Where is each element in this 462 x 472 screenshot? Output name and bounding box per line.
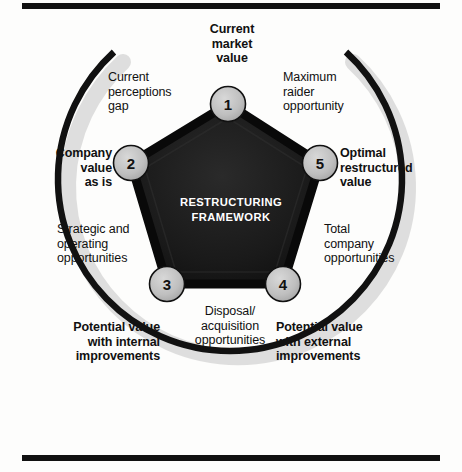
node-5[interactable]: 5 <box>303 146 338 181</box>
node-1[interactable]: 1 <box>211 87 246 122</box>
label-potential-value-with-external-improvements: Potential valuewith externalimprovements <box>276 320 390 364</box>
label-strategic-and-operating-opportunities: Strategic andoperatingopportunities <box>57 222 159 266</box>
node-2-number: 2 <box>127 155 135 172</box>
node-5-number: 5 <box>316 155 324 172</box>
pentagon-shape <box>131 104 320 284</box>
restructuring-framework-figure: RESTRUCTURING FRAMEWORK 1 2 3 4 5 Curren… <box>0 0 462 472</box>
label-total-company-opportunities: Totalcompanyopportunities <box>324 222 428 266</box>
node-1-number: 1 <box>224 96 232 113</box>
node-3-number: 3 <box>163 276 171 293</box>
center-title-line-2: FRAMEWORK <box>192 211 271 223</box>
node-4-number: 4 <box>279 276 288 293</box>
horizontal-rule-bottom <box>22 455 440 461</box>
label-disposal-acquisition-opportunities: Disposal/acquisitionopportunities <box>178 304 282 348</box>
label-current-market-value: Currentmarketvalue <box>186 22 278 66</box>
label-maximum-raider-opportunity: Maximumraideropportunity <box>283 70 383 114</box>
label-optimal-restructured-value: Optimalrestructuredvalue <box>340 146 456 190</box>
node-4[interactable]: 4 <box>266 267 301 302</box>
label-company-value-as-is: Companyvalueas is <box>6 146 112 190</box>
center-title-line-1: RESTRUCTURING <box>180 196 282 208</box>
node-2[interactable]: 2 <box>114 146 149 181</box>
label-potential-value-with-internal-improvements: Potential valuewith internalimprovements <box>48 320 160 364</box>
node-3[interactable]: 3 <box>150 267 185 302</box>
label-current-perceptions-gap: Currentperceptionsgap <box>108 70 200 114</box>
